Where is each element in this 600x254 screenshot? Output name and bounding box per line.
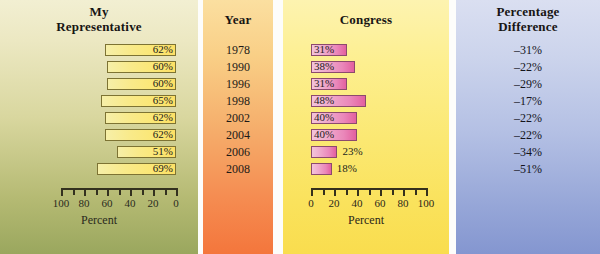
congress-row: 18%	[283, 161, 449, 178]
axis-tick	[346, 188, 348, 195]
year-value-rows: 19781990199619982002200420062008	[203, 42, 273, 178]
representative-bar-value: 62%	[153, 111, 173, 124]
representative-bar-value: 69%	[153, 162, 173, 175]
axis-tick-label: 0	[308, 197, 314, 210]
representative-bar-value: 60%	[153, 60, 173, 73]
difference-value: –22%	[456, 110, 600, 127]
axis-tick-label: 100	[53, 197, 70, 210]
panel-title-line1: Percentage	[456, 4, 600, 19]
representative-bar-value: 62%	[153, 43, 173, 56]
axis-tick	[130, 188, 132, 196]
axis-tick-label: 40	[352, 197, 363, 210]
representative-bar-value: 65%	[153, 94, 173, 107]
chart-figure: My Representative 62%60%60%65%62%62%51%6…	[0, 0, 600, 254]
axis-tick-label: 0	[173, 197, 179, 210]
axis-tick	[403, 188, 405, 196]
congress-bar-value: 18%	[337, 162, 357, 175]
axis-tick-label: 80	[398, 197, 409, 210]
axis-tick	[380, 188, 382, 196]
representative-row: 60%	[0, 59, 198, 76]
panel-my-representative: My Representative 62%60%60%65%62%62%51%6…	[0, 0, 198, 254]
congress-bar-value: 48%	[314, 94, 334, 107]
axis-tick	[84, 188, 86, 196]
representative-row: 62%	[0, 110, 198, 127]
congress-row: 48%	[283, 93, 449, 110]
representative-row: 62%	[0, 42, 198, 59]
representative-bar-value: 62%	[153, 128, 173, 141]
panel-title-my-representative: My Representative	[0, 4, 198, 34]
panel-year: Year 19781990199619982002200420062008	[203, 0, 273, 254]
representative-bar-rows: 62%60%60%65%62%62%51%69%	[0, 42, 198, 178]
panel-title-line2: Representative	[0, 19, 198, 34]
axis-tick	[392, 188, 394, 195]
axis-tick	[119, 188, 121, 195]
axis-tick-label: 20	[148, 197, 159, 210]
panel-title-congress: Congress	[283, 12, 449, 27]
representative-row: 62%	[0, 127, 198, 144]
representative-row: 69%	[0, 161, 198, 178]
axis-tick	[107, 188, 109, 196]
year-value: 2002	[203, 110, 273, 127]
axis-tick-label: 80	[79, 197, 90, 210]
axis-tick	[334, 188, 336, 196]
axis-tick	[165, 188, 167, 195]
axis-tick-label: 60	[102, 197, 113, 210]
difference-value: –31%	[456, 42, 600, 59]
congress-row: 31%	[283, 76, 449, 93]
axis-tick-labels: 100806040200	[61, 197, 176, 211]
year-value: 1978	[203, 42, 273, 59]
axis-tick	[369, 188, 371, 195]
panel-congress: Congress 31%38%31%48%40%40%23%18% 020406…	[283, 0, 449, 254]
congress-bar-value: 23%	[342, 145, 362, 158]
congress-axis-caption: Percent	[283, 213, 449, 227]
congress-row: 31%	[283, 42, 449, 59]
year-value: 2004	[203, 127, 273, 144]
axis-tick-label: 60	[375, 197, 386, 210]
congress-row: 40%	[283, 127, 449, 144]
axis-tick	[415, 188, 417, 195]
representative-row: 51%	[0, 144, 198, 161]
congress-bar-value: 38%	[314, 60, 334, 73]
congress-bar	[311, 163, 332, 175]
representative-bar-value: 51%	[153, 145, 173, 158]
difference-value: –29%	[456, 76, 600, 93]
congress-bar	[311, 146, 337, 158]
difference-value: –17%	[456, 93, 600, 110]
difference-value: –22%	[456, 127, 600, 144]
congress-bar-value: 40%	[314, 111, 334, 124]
representative-bar-value: 60%	[153, 77, 173, 90]
difference-value: –51%	[456, 161, 600, 178]
axis-tick	[323, 188, 325, 195]
year-value: 2008	[203, 161, 273, 178]
representative-row: 60%	[0, 76, 198, 93]
year-value: 2006	[203, 144, 273, 161]
axis-tick	[311, 188, 313, 196]
axis-tick	[357, 188, 359, 196]
representative-axis-caption: Percent	[0, 213, 198, 227]
axis-tick	[153, 188, 155, 196]
difference-value: –22%	[456, 59, 600, 76]
axis-tick-label: 20	[329, 197, 340, 210]
panel-title-line1: My	[0, 4, 198, 19]
axis-tick-label: 40	[125, 197, 136, 210]
congress-row: 38%	[283, 59, 449, 76]
axis-tick	[73, 188, 75, 195]
congress-row: 40%	[283, 110, 449, 127]
axis-tick	[176, 188, 178, 196]
year-value: 1996	[203, 76, 273, 93]
panel-title-line2: Difference	[456, 19, 600, 34]
axis-tick	[142, 188, 144, 195]
axis-tick	[426, 188, 428, 196]
axis-tick-labels: 020406080100	[311, 197, 426, 211]
congress-bar-value: 40%	[314, 128, 334, 141]
axis-tick	[96, 188, 98, 195]
congress-bar-value: 31%	[314, 43, 334, 56]
congress-bar-value: 31%	[314, 77, 334, 90]
year-value: 1998	[203, 93, 273, 110]
panel-title-year: Year	[203, 12, 273, 27]
congress-bar-rows: 31%38%31%48%40%40%23%18%	[283, 42, 449, 178]
axis-tick	[61, 188, 63, 196]
axis-tick-label: 100	[418, 197, 435, 210]
panel-title-percentage-difference: Percentage Difference	[456, 4, 600, 34]
congress-row: 23%	[283, 144, 449, 161]
